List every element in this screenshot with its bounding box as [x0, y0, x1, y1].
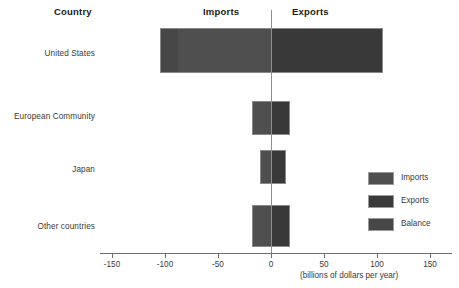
zero-axis-line: [271, 10, 272, 253]
x-axis-tick-label: 100: [370, 260, 384, 269]
bar-segment-imports: [178, 28, 271, 73]
legend-swatch: [368, 218, 394, 231]
category-label-japan: Japan: [0, 165, 95, 174]
legend-label: Exports: [401, 196, 429, 205]
x-axis-tick: [430, 254, 431, 258]
legend-swatch: [368, 172, 394, 185]
x-axis-tick: [377, 254, 378, 258]
bar-segment-exports: [271, 150, 286, 184]
x-axis-tick: [271, 254, 272, 258]
bar-segment-exports: [271, 101, 290, 135]
category-label-european-community: European Community: [0, 112, 95, 121]
category-label-united-states: United States: [0, 49, 95, 58]
x-axis-tick-label: 0: [269, 260, 274, 269]
bar-segment-imports: [260, 150, 271, 184]
x-axis-tick: [165, 254, 166, 258]
trade-balance-chart: Country Imports Exports United StatesEur…: [0, 0, 459, 288]
bar-segment-balance: [160, 28, 178, 73]
x-axis-tick-label: 150: [423, 260, 437, 269]
bar-segment-imports: [252, 205, 271, 247]
x-axis-tick: [112, 254, 113, 258]
x-axis-tick-label: -100: [157, 260, 173, 269]
legend-label: Balance: [401, 219, 431, 228]
plot-area: United StatesEuropean CommunityJapanOthe…: [0, 0, 459, 288]
x-axis-line: [100, 253, 452, 254]
bar-segment-exports: [271, 28, 383, 73]
x-axis-tick-label: 50: [319, 260, 328, 269]
x-axis-tick: [324, 254, 325, 258]
x-axis-tick-label: -50: [212, 260, 224, 269]
legend-label: Imports: [401, 173, 428, 182]
bar-segment-imports: [252, 101, 271, 135]
category-label-other-countries: Other countries: [0, 222, 95, 231]
legend-swatch: [368, 195, 394, 208]
x-axis-tick-label: -150: [104, 260, 120, 269]
bar-segment-exports: [271, 205, 290, 247]
x-axis-unit-label: (billions of dollars per year): [300, 271, 398, 280]
x-axis-tick: [218, 254, 219, 258]
